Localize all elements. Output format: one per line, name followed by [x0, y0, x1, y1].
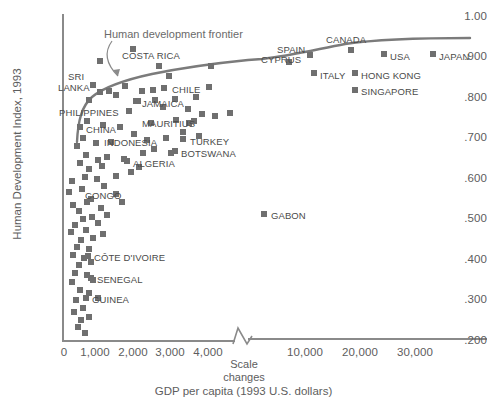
label-china: CHINA	[86, 125, 116, 135]
data-point[interactable]	[80, 216, 86, 222]
label-sri: SRI	[68, 72, 84, 82]
label-mauritius: MAURITIUS	[142, 119, 195, 129]
data-point[interactable]	[83, 152, 89, 158]
data-point[interactable]	[113, 173, 119, 179]
data-point-hong-kong[interactable]	[352, 70, 358, 76]
data-point[interactable]	[76, 262, 82, 268]
data-point[interactable]	[93, 140, 99, 146]
data-point[interactable]	[126, 108, 132, 114]
data-point[interactable]	[80, 135, 86, 141]
data-point[interactable]	[66, 189, 72, 195]
data-point-guinea[interactable]	[83, 295, 89, 301]
data-point[interactable]	[100, 231, 106, 237]
data-point[interactable]	[185, 106, 191, 112]
data-point-canada[interactable]	[348, 47, 354, 53]
data-point[interactable]	[101, 183, 107, 189]
label-spain: SPAIN	[277, 45, 305, 55]
data-point[interactable]	[76, 208, 82, 214]
data-point-senegal[interactable]	[88, 275, 94, 281]
data-point[interactable]	[98, 205, 104, 211]
data-point-gabon[interactable]	[261, 211, 267, 217]
data-point[interactable]	[72, 270, 78, 276]
data-point[interactable]	[86, 166, 92, 172]
data-point[interactable]	[78, 317, 84, 323]
data-point[interactable]	[128, 169, 134, 175]
data-point[interactable]	[70, 252, 76, 258]
data-point-italy[interactable]	[311, 70, 317, 76]
label-philippines: PHILIPPINES	[59, 108, 119, 118]
data-point[interactable]	[86, 314, 92, 320]
data-point-china[interactable]	[77, 124, 83, 130]
data-point[interactable]	[77, 160, 83, 166]
data-point[interactable]	[82, 174, 88, 180]
data-point[interactable]	[97, 89, 103, 95]
data-point[interactable]	[78, 237, 84, 243]
data-point-chile[interactable]	[206, 84, 212, 90]
label-chile: CHILE	[172, 85, 200, 95]
data-point[interactable]	[90, 235, 96, 241]
data-point[interactable]	[180, 129, 186, 135]
data-point[interactable]	[227, 110, 233, 116]
data-point-cote-divoire[interactable]	[85, 253, 91, 259]
data-point-costa-rica[interactable]	[156, 63, 162, 69]
data-point[interactable]	[69, 279, 75, 285]
data-point[interactable]	[95, 220, 101, 226]
data-point-singapore[interactable]	[352, 87, 358, 93]
label-congo: CONGO	[85, 191, 121, 201]
data-point-botswana[interactable]	[172, 148, 178, 154]
label-botswana: BOTSWANA	[181, 149, 236, 159]
data-point[interactable]	[83, 227, 89, 233]
data-point[interactable]	[104, 212, 110, 218]
data-point[interactable]	[71, 309, 77, 315]
data-point[interactable]	[106, 88, 112, 94]
data-point-turkey[interactable]	[180, 136, 186, 142]
label-gabon: GABON	[271, 211, 306, 221]
data-point-japan[interactable]	[430, 51, 436, 57]
data-point[interactable]	[86, 246, 92, 252]
data-point-algeria[interactable]	[124, 158, 130, 164]
label-lanka: LANKA	[58, 83, 90, 93]
data-point[interactable]	[139, 88, 145, 94]
frontier-annotation-label: Human development frontier	[104, 28, 243, 40]
data-point[interactable]	[97, 58, 103, 64]
data-point-usa[interactable]	[381, 51, 387, 57]
data-point[interactable]	[74, 143, 80, 149]
data-point[interactable]	[77, 287, 83, 293]
label-algeria: ALGERIA	[133, 159, 175, 169]
label-costa-rica: COSTA RICA	[122, 51, 180, 61]
data-point[interactable]	[208, 63, 214, 69]
data-point-spain[interactable]	[307, 52, 313, 58]
data-point[interactable]	[90, 82, 96, 88]
data-point[interactable]	[166, 73, 172, 79]
data-point[interactable]	[140, 150, 146, 156]
data-point-jamaica-marker[interactable]	[133, 98, 139, 104]
label-guinea: GUINEA	[92, 295, 129, 305]
label-singapore: SINGAPORE	[361, 87, 418, 97]
data-point[interactable]	[80, 305, 86, 311]
data-point[interactable]	[122, 83, 128, 89]
data-point-sri-lanka[interactable]	[86, 97, 92, 103]
data-point[interactable]	[163, 135, 169, 141]
data-point[interactable]	[74, 244, 80, 250]
data-point[interactable]	[113, 92, 119, 98]
label-usa: USA	[390, 52, 410, 62]
data-point[interactable]	[117, 124, 123, 130]
label-indonesia: INDONESIA	[104, 138, 157, 148]
label-jamaica: JAMAICA	[142, 99, 184, 109]
data-point[interactable]	[73, 297, 79, 303]
data-point[interactable]	[94, 176, 100, 182]
data-point[interactable]	[161, 85, 167, 91]
data-point[interactable]	[82, 330, 88, 336]
label-cote-divoire: CÔTE D'IVOIRE	[94, 253, 165, 263]
data-point[interactable]	[68, 229, 74, 235]
data-point[interactable]	[72, 222, 78, 228]
data-point[interactable]	[150, 87, 156, 93]
data-point[interactable]	[99, 163, 105, 169]
data-point[interactable]	[69, 178, 75, 184]
data-point[interactable]	[199, 111, 205, 117]
data-point[interactable]	[104, 154, 110, 160]
hdi-vs-gdp-scatter-chart: 1.00 .900 .800 .700 .600 .500 .400 .300 …	[0, 0, 487, 405]
data-point[interactable]	[75, 324, 81, 330]
data-point[interactable]	[212, 113, 218, 119]
label-hong-kong: HONG KONG	[361, 71, 421, 81]
